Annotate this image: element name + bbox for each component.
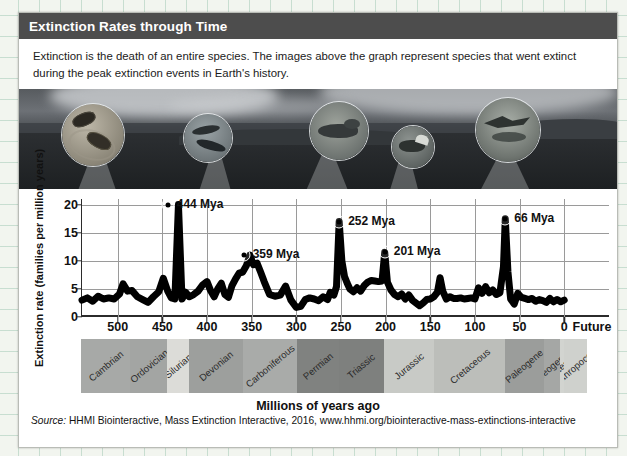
x-tick-mark (474, 317, 475, 322)
x-tick-label: 200 (375, 320, 396, 334)
period-label: Ordovician (130, 347, 167, 385)
period-band-devonian[interactable]: Devonian (189, 339, 243, 393)
period-label: Cambrian (86, 348, 125, 383)
x-tick-label: 0 (561, 320, 568, 334)
period-label: Anthropocene (564, 343, 587, 390)
peak-marker-dot (165, 202, 170, 207)
source-text: HHMI Biointeractive, Mass Extinction Int… (69, 415, 576, 426)
y-axis-label-text: Extinction rate (families per million ye… (33, 149, 47, 367)
peak-annotation-label: 201 Mya (394, 244, 441, 258)
x-tick-mark (519, 317, 520, 322)
x-axis-title: Millions of years ago (19, 393, 617, 415)
peak-marker-dot (503, 216, 508, 221)
period-band-neogene[interactable]: Neogene (544, 339, 560, 393)
intro-text: Extinction is the death of an entire spe… (19, 39, 617, 89)
x-tick-label: 100 (464, 320, 485, 334)
period-label: Cretaceous (447, 346, 492, 386)
peak-marker-dot (337, 219, 342, 224)
period-band-permian[interactable]: Permian (297, 339, 339, 393)
pterosaur-inset[interactable] (475, 97, 541, 163)
period-band-silurian[interactable]: Silurian (167, 339, 189, 393)
peak-marker-dot (241, 253, 246, 258)
period-label: Silurian (167, 352, 189, 381)
x-tick-label: 350 (241, 320, 262, 334)
source-citation: Source: HHMI Biointeractive, Mass Extinc… (19, 415, 617, 426)
period-label: Triassic (345, 351, 377, 380)
peak-annotation-label: 444 Mya (177, 197, 224, 211)
period-label: Neogene (544, 349, 560, 382)
period-label: Carboniferous (243, 342, 296, 389)
peak-annotation-label: 66 Mya (514, 211, 554, 225)
period-band-cambrian[interactable]: Cambrian (81, 339, 130, 393)
x-tick-label: 400 (197, 320, 218, 334)
period-label: Paleogene (505, 347, 543, 385)
x-tick-label: 300 (286, 320, 307, 334)
x-tick-label: 150 (420, 320, 441, 334)
source-prefix: Source: (31, 415, 66, 426)
page-title: Extinction Rates through Time (29, 19, 227, 34)
peak-annotation-label: 359 Mya (253, 247, 300, 261)
period-label: Jurassic (392, 351, 426, 382)
trilobites-inset[interactable] (61, 103, 125, 167)
cloud-shape (319, 89, 617, 115)
y-tick-label: 10 (64, 254, 78, 268)
period-label: Permian (300, 350, 334, 381)
dinosaur-inset[interactable] (391, 125, 435, 169)
x-tick-mark (430, 317, 431, 322)
x-tick-mark (206, 317, 207, 322)
x-tick-mark (117, 317, 118, 322)
landscape-photo-band (19, 89, 617, 189)
period-band-paleogene[interactable]: Paleogene (505, 339, 543, 393)
x-tick-mark (340, 317, 341, 322)
peak-annotation-label: 252 Mya (348, 214, 395, 228)
period-label: Devonian (197, 349, 235, 383)
reptile-inset[interactable] (309, 101, 369, 161)
x-tick-label: 50 (513, 320, 527, 334)
peak-marker-dot (382, 250, 387, 255)
x-tick-label: 250 (331, 320, 352, 334)
period-band-cretaceous[interactable]: Cretaceous (434, 339, 505, 393)
geologic-period-band: CambrianOrdovicianSilurianDevonianCarbon… (81, 339, 609, 393)
y-axis-label: Extinction rate (families per million ye… (21, 199, 59, 317)
x-tick-mark (564, 317, 565, 322)
period-band-jurassic[interactable]: Jurassic (384, 339, 434, 393)
x-tick-mark (385, 317, 386, 322)
x-tick-mark (251, 317, 252, 322)
period-band-ordovician[interactable]: Ordovician (130, 339, 167, 393)
x-tick-label: 450 (152, 320, 173, 334)
y-tick-label: 20 (64, 198, 78, 212)
period-band-triassic[interactable]: Triassic (339, 339, 385, 393)
period-band-carboniferous[interactable]: Carboniferous (243, 339, 297, 393)
fish-inset[interactable] (183, 113, 233, 163)
x-tick-label-future: Future (573, 320, 612, 334)
figure-title-bar: Extinction Rates through Time (19, 13, 617, 39)
period-band-anthropocene[interactable]: Anthropocene (564, 339, 587, 393)
y-tick-label: 15 (64, 226, 78, 240)
x-tick-mark (296, 317, 297, 322)
x-tick-label: 500 (107, 320, 128, 334)
extinction-rate-chart: Extinction rate (families per million ye… (19, 189, 617, 339)
figure-card: Extinction Rates through Time Extinction… (18, 12, 618, 448)
plot-area: 05101520500450400350300250200150100500Fu… (81, 199, 609, 317)
x-tick-mark (162, 317, 163, 322)
